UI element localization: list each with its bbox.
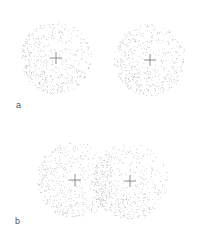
stippled-sphere bbox=[114, 24, 185, 96]
panel-label-a: a bbox=[16, 101, 21, 110]
center-cross-icon bbox=[124, 175, 136, 187]
center-cross-icon bbox=[50, 52, 62, 64]
panel-b-spheres bbox=[37, 143, 168, 219]
diagram-figure: a b bbox=[0, 0, 202, 229]
sphere-diagram bbox=[0, 0, 202, 229]
panel-label-b: b bbox=[15, 217, 20, 226]
center-cross-icon bbox=[69, 174, 81, 186]
stippled-sphere bbox=[21, 22, 92, 94]
stippled-sphere bbox=[37, 143, 113, 217]
panel-a-spheres bbox=[21, 22, 185, 96]
